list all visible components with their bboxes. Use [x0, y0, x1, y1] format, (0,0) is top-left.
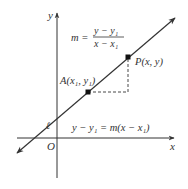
point-p-marker [126, 55, 131, 60]
slope-lhs: m = [71, 32, 88, 43]
point-a-marker [86, 90, 91, 95]
y-axis-label: y [47, 9, 53, 21]
slope-numerator: y − y₁ [93, 25, 118, 36]
point-a-label: A(x₁, y₁) [59, 75, 96, 87]
point-slope-diagram: y x O ℓ m = y − y₁ x − x₁ P(x, y) A(x₁, … [0, 0, 188, 189]
point-p-label: P(x, y) [134, 56, 163, 68]
origin-label: O [47, 140, 55, 152]
diagram-canvas: y x O ℓ m = y − y₁ x − x₁ P(x, y) A(x₁, … [0, 0, 188, 189]
x-axis-label: x [169, 140, 175, 152]
slope-denominator: x − x₁ [93, 38, 118, 49]
point-slope-equation: y − y₁ = m(x − x₁) [71, 122, 150, 134]
line-label: ℓ [46, 120, 50, 131]
